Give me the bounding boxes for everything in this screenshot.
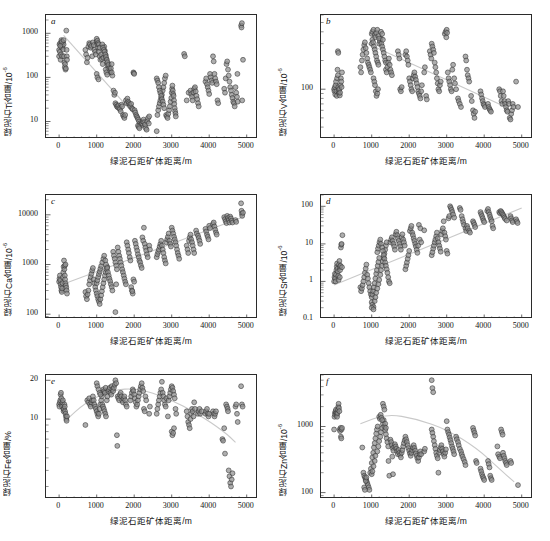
panel-a: a101001000010002000300040005000绿泥石Ti含量/1…	[0, 0, 275, 180]
x-tick-label: 1000	[76, 321, 116, 330]
x-tick-label: 4000	[463, 141, 503, 150]
x-tick-label: 0	[38, 141, 78, 150]
y-axis-label-text: 绿泥石Sr含量/10	[279, 251, 289, 316]
y-axis-label-exponent: -6	[2, 243, 8, 248]
panel-letter-f: f	[326, 376, 329, 386]
data-points	[57, 201, 246, 315]
x-tick-label: 2000	[113, 321, 153, 330]
x-tick-label: 0	[38, 501, 78, 510]
plot-area-a	[45, 14, 257, 138]
x-tick-label: 3000	[426, 501, 466, 510]
y-axis-label-exponent: -6	[277, 424, 283, 429]
x-tick-label: 0	[313, 321, 353, 330]
figure-root: a101001000010002000300040005000绿泥石Ti含量/1…	[0, 0, 550, 541]
x-tick-label: 5000	[226, 501, 266, 510]
data-points	[332, 204, 520, 312]
y-axis-label-text: 绿泥石Ca含量/10	[4, 248, 14, 316]
axis-ticks	[321, 15, 522, 138]
x-tick-label: 5000	[226, 141, 266, 150]
x-tick-label: 3000	[426, 321, 466, 330]
panel-letter-b: b	[326, 16, 331, 26]
x-tick-label: 4000	[463, 321, 503, 330]
x-tick-label: 1000	[351, 321, 391, 330]
x-tick-label: 1000	[351, 141, 391, 150]
y-axis-label-exponent: -6	[277, 68, 283, 73]
x-tick-label: 0	[313, 141, 353, 150]
panel-letter-c: c	[51, 196, 55, 206]
x-axis-label-a: 绿泥石距矿体距离/m	[45, 154, 257, 166]
panel-f: f1001000010002000300040005000绿泥石Zn含量/10-…	[275, 360, 550, 540]
data-points	[332, 27, 521, 122]
x-axis-label-c: 绿泥石距矿体距离/m	[45, 334, 257, 346]
x-tick-label: 3000	[151, 501, 191, 510]
plot-area-c	[45, 194, 257, 318]
x-tick-label: 4000	[463, 501, 503, 510]
x-tick-label: 2000	[113, 501, 153, 510]
x-tick-label: 4000	[188, 141, 228, 150]
x-tick-label: 1000	[76, 141, 116, 150]
data-points	[57, 21, 246, 134]
x-tick-label: 1000	[351, 501, 391, 510]
x-axis-label-b: 绿泥石距矿体距离/m	[320, 154, 532, 166]
plot-area-d	[320, 194, 532, 318]
x-tick-label: 5000	[501, 501, 541, 510]
x-tick-label: 5000	[501, 321, 541, 330]
data-points	[57, 378, 245, 489]
x-tick-label: 5000	[226, 321, 266, 330]
x-tick-label: 2000	[113, 141, 153, 150]
x-tick-label: 3000	[151, 141, 191, 150]
y-axis-label-d: 绿泥石Sr含量/10-6	[277, 202, 290, 316]
y-axis-label-b: 绿泥石V含量/10-6	[277, 22, 290, 136]
y-axis-label-exponent: -6	[2, 67, 8, 72]
x-axis-label-d: 绿泥石距矿体距离/m	[320, 334, 532, 346]
plot-area-e	[45, 374, 257, 498]
y-axis-label-a: 绿泥石Ti含量/10-6	[2, 22, 15, 136]
panel-e: e1020010002000300040005000绿泥石Fe含量/%绿泥石距矿…	[0, 360, 275, 540]
y-axis-label-text: 绿泥石Fe含量/%	[3, 431, 13, 496]
plot-area-f	[320, 374, 532, 498]
x-axis-label-e: 绿泥石距矿体距离/m	[45, 514, 257, 526]
y-axis-label-text: 绿泥石Zn含量/10	[279, 429, 289, 496]
x-tick-label: 2000	[388, 501, 428, 510]
x-tick-label: 5000	[501, 141, 541, 150]
y-axis-label-f: 绿泥石Zn含量/10-6	[277, 382, 290, 496]
x-tick-label: 4000	[188, 321, 228, 330]
x-tick-label: 1000	[76, 501, 116, 510]
panel-d: d0.1110100010002000300040005000绿泥石Sr含量/1…	[275, 180, 550, 360]
panel-letter-e: e	[51, 376, 55, 386]
x-tick-label: 3000	[426, 141, 466, 150]
panel-b: b100010002000300040005000绿泥石V含量/10-6绿泥石距…	[275, 0, 550, 180]
y-axis-label-exponent: -6	[277, 245, 283, 250]
data-points	[332, 378, 521, 493]
plot-area-b	[320, 14, 532, 138]
x-tick-label: 2000	[388, 321, 428, 330]
panel-letter-d: d	[326, 196, 331, 206]
y-axis-label-c: 绿泥石Ca含量/10-6	[2, 202, 15, 316]
y-axis-label-text: 绿泥石V含量/10	[279, 74, 289, 137]
y-axis-label-e: 绿泥石Fe含量/%	[2, 382, 14, 496]
panel-c: c100100010000010002000300040005000绿泥石Ca含…	[0, 180, 275, 360]
x-tick-label: 4000	[188, 501, 228, 510]
x-axis-label-f: 绿泥石距矿体距离/m	[320, 514, 532, 526]
panel-letter-a: a	[51, 16, 56, 26]
x-tick-label: 0	[313, 501, 353, 510]
x-tick-label: 0	[38, 321, 78, 330]
x-tick-label: 2000	[388, 141, 428, 150]
x-tick-label: 3000	[151, 321, 191, 330]
y-axis-label-text: 绿泥石Ti含量/10	[4, 72, 14, 136]
